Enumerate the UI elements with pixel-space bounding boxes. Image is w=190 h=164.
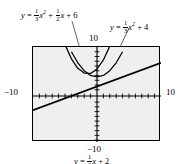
- plot-canvas: [33, 47, 161, 142]
- eq-b-lhs: y: [110, 22, 114, 32]
- eq-line-equals: =: [80, 156, 85, 164]
- eq-b-equals: =: [116, 22, 121, 32]
- eq-a-equals: =: [27, 10, 32, 20]
- figure-container: y = 1 3 x2 + 1 2 x + 6 y = 1 3 x2 + 4: [0, 0, 190, 164]
- axis-label-left: −10: [4, 88, 18, 97]
- equation-label-line: y = 1 2 x + 2: [74, 154, 109, 164]
- eq-a-constant: 6: [73, 10, 77, 20]
- equation-label-parabola-a: y = 1 3 x2 + 1 2 x + 6: [21, 8, 78, 22]
- eq-a-exponent-a: 2: [43, 9, 46, 15]
- eq-a-var-b: x: [60, 10, 64, 20]
- eq-a-plus-2: +: [66, 10, 71, 20]
- eq-a-plus-1: +: [48, 10, 53, 20]
- eq-line-var: x: [92, 156, 96, 164]
- curve-parabola-a: [59, 47, 117, 73]
- plot-frame: y = 1 2 x + 2: [32, 46, 160, 141]
- axis-label-right: 10: [166, 88, 175, 97]
- eq-b-constant: 4: [144, 22, 148, 32]
- eq-line-constant: 2: [105, 156, 109, 164]
- axis-label-top: 10: [89, 34, 98, 43]
- eq-line-plus: +: [98, 156, 103, 164]
- eq-b-exponent-a: 2: [132, 21, 135, 27]
- eq-a-lhs: y: [21, 10, 25, 20]
- eq-b-plus-1: +: [137, 22, 142, 32]
- equation-label-parabola-b: y = 1 3 x2 + 4: [110, 20, 148, 34]
- eq-line-lhs: y: [74, 156, 78, 164]
